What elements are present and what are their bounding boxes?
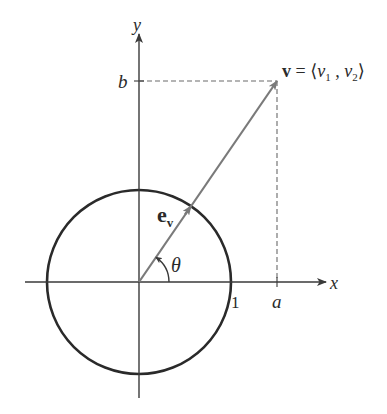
diagram-canvas: y x b a 1 θ ev v = ⟨v1 , v2⟩ bbox=[0, 0, 387, 414]
vector-v-component1: v bbox=[317, 61, 325, 81]
theta-label: θ bbox=[171, 254, 181, 276]
vector-v-component2: v bbox=[344, 61, 352, 81]
vector-v-arrow bbox=[139, 81, 277, 282]
tick-label-one: 1 bbox=[231, 293, 240, 312]
vector-v-separator: , bbox=[331, 61, 345, 81]
unit-vector-e-v-arrow bbox=[185, 206, 191, 215]
y-axis-label: y bbox=[131, 15, 141, 35]
vector-v-label-bold: v bbox=[282, 61, 291, 81]
tick-label-b: b bbox=[118, 71, 128, 92]
tick-label-a: a bbox=[272, 291, 282, 312]
unit-vector-label: ev bbox=[157, 202, 174, 230]
unit-vector-label-main: e bbox=[157, 202, 167, 227]
x-axis-label: x bbox=[329, 273, 338, 293]
vector-v-label-eq: = ⟨ bbox=[291, 61, 317, 81]
theta-arc bbox=[156, 257, 169, 282]
vector-v-close: ⟩ bbox=[358, 61, 365, 81]
vector-v-label: v = ⟨v1 , v2⟩ bbox=[282, 61, 365, 83]
unit-vector-label-sub: v bbox=[167, 215, 174, 230]
